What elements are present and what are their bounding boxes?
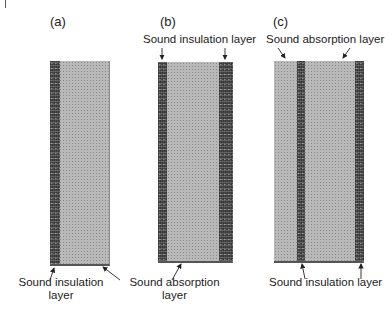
panel-c-bottom-label: Sound insulation layer [269,276,382,289]
label-line: Sound insulation [6,276,116,289]
label-line: layer [117,289,232,302]
panel-a-bottom-label-absorption: Sound absorption layer [117,276,232,302]
label-line: layer [6,289,116,302]
label-line: Sound absorption [117,276,232,289]
arrow-icon [343,48,350,58]
panel-a-bottom-label-insulation: Sound insulation layer [6,276,116,302]
annotation-arrows [0,0,392,311]
arrow-icon [278,48,285,58]
